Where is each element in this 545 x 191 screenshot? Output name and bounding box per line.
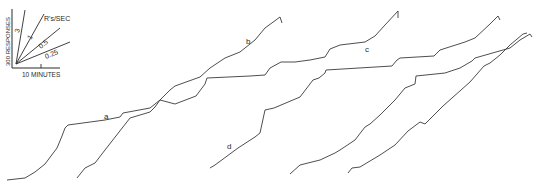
rate-label-0.25: 0.25 [44,48,59,60]
annotation-d: d [227,142,231,151]
x-axis-label: 10 MINUTES [22,71,61,78]
cumulative-record-chart: R's/SEC 3 1 0.5 0.25 300 RESPONSES 10 MI… [0,0,545,191]
record-2 [77,11,398,178]
annotation-a: a [104,112,109,121]
legend-title: R's/SEC [44,15,70,22]
annotation-b: b [246,37,251,46]
y-axis-label: 300 RESPONSES [5,17,11,66]
rate-label-3: 3 [13,28,21,34]
annotation-c: c [365,45,369,54]
record-5 [348,33,527,173]
records [7,11,532,180]
record-3 [210,16,500,168]
rate-label-0.5: 0.5 [37,38,49,50]
annotations: a b c d [104,37,369,151]
rate-legend: R's/SEC 3 1 0.5 0.25 300 RESPONSES 10 MI… [5,9,70,78]
record-1 [7,17,282,180]
